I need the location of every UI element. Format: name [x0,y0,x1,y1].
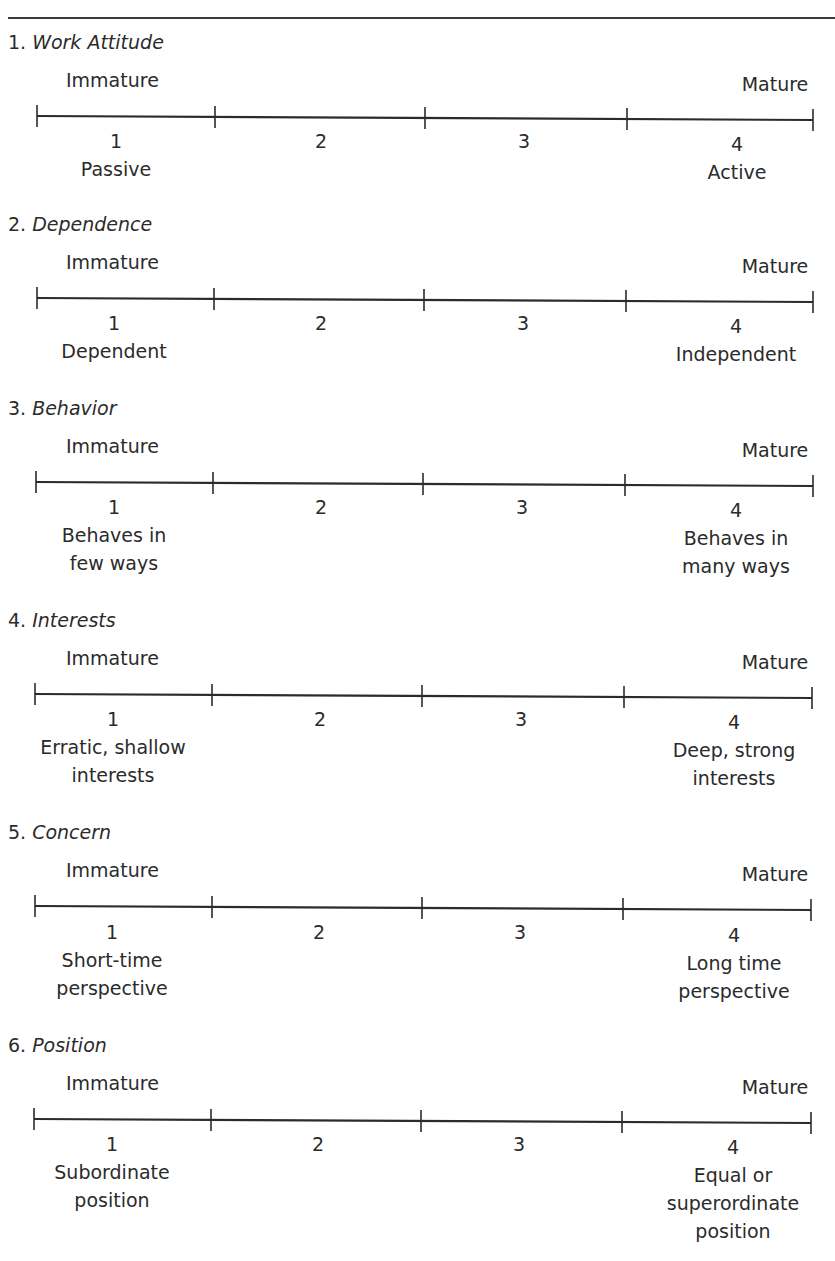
point-1: 1 Passive [81,127,151,183]
point-4: 4 Long time perspective [678,921,789,1005]
scale-number: 3. [8,397,26,419]
scale-name: Dependence [32,213,152,235]
scale-title: 3.Behavior [8,397,117,419]
scale-name: Interests [32,609,116,631]
scale-title: 1.Work Attitude [8,31,164,53]
anchor-immature: Immature [66,251,159,273]
scale-title: 5.Concern [8,821,111,843]
scale-name: Position [32,1034,107,1056]
anchor-mature: Mature [735,73,815,95]
scale-number: 5. [8,821,26,843]
anchor-mature: Mature [735,439,815,461]
scale-number: 2. [8,213,26,235]
point-3: 3 [513,1130,525,1158]
point-3: 3 [515,705,527,733]
anchor-mature: Mature [735,255,815,277]
point-3: 3 [518,127,530,155]
point-4: 4 Behaves in many ways [682,496,790,580]
point-1: 1 Subordinate position [54,1130,169,1214]
point-1: 1 Short-time perspective [56,918,167,1002]
scale-title: 4.Interests [8,609,116,631]
point-1: 1 Dependent [61,309,166,365]
scale-name: Concern [32,821,111,843]
anchor-immature: Immature [66,859,159,881]
point-4: 4 Independent [676,312,796,368]
scale-title: 6.Position [8,1034,107,1056]
point-2: 2 [313,918,325,946]
anchor-immature: Immature [66,647,159,669]
point-1: 1 Behaves in few ways [62,493,167,577]
scale-name: Work Attitude [32,31,164,53]
point-4: 4 Active [708,130,767,186]
point-4: 4 Equal or superordinate position [667,1133,799,1245]
scale-name: Behavior [32,397,116,419]
point-1: 1 Erratic, shallow interests [40,705,186,789]
point-3: 3 [517,309,529,337]
anchor-immature: Immature [66,435,159,457]
anchor-immature: Immature [66,1072,159,1094]
point-2: 2 [315,309,327,337]
scale-title: 2.Dependence [8,213,152,235]
anchor-mature: Mature [735,863,815,885]
scale-number: 4. [8,609,26,631]
point-2: 2 [312,1130,324,1158]
point-3: 3 [516,493,528,521]
anchor-immature: Immature [66,69,159,91]
anchor-mature: Mature [735,651,815,673]
point-4: 4 Deep, strong interests [673,708,796,792]
point-2: 2 [314,705,326,733]
point-2: 2 [315,127,327,155]
anchor-mature: Mature [735,1076,815,1098]
scale-number: 6. [8,1034,26,1056]
scale-number: 1. [8,31,26,53]
point-3: 3 [514,918,526,946]
rating-line [0,883,835,923]
point-2: 2 [315,493,327,521]
header-rule [8,17,835,19]
